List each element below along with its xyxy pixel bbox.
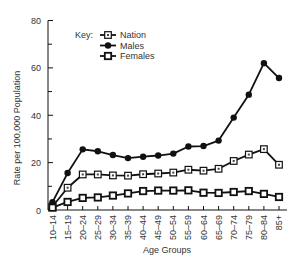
- legend-label: Males: [120, 41, 145, 51]
- series-line: [53, 63, 280, 202]
- filled-circle-marker: [95, 148, 101, 154]
- legend-item-nation: Nation: [100, 30, 146, 40]
- open-square-marker: [231, 189, 237, 195]
- y-axis: 020406080: [31, 16, 53, 216]
- x-tick-label: 75–79: [244, 215, 254, 240]
- filled-circle-marker: [200, 143, 206, 149]
- x-tick-label: 80–84: [259, 215, 269, 240]
- open-square-marker: [140, 188, 146, 194]
- filled-circle-marker: [64, 170, 70, 176]
- filled-circle-marker: [155, 152, 161, 158]
- open-square-marker: [80, 195, 86, 201]
- open-square-marker: [200, 190, 206, 196]
- series-layer: [49, 60, 282, 211]
- x-axis-title: Age Groups: [143, 245, 192, 255]
- filled-circle-marker: [80, 146, 86, 152]
- x-tick-label: 35–39: [123, 215, 133, 240]
- filled-circle-marker: [246, 91, 252, 97]
- open-square-marker: [110, 192, 116, 198]
- x-tick-label: 30–34: [108, 215, 118, 240]
- y-tick-label: 80: [31, 16, 41, 26]
- x-tick-label: 15–19: [63, 215, 73, 240]
- open-square-marker: [125, 190, 131, 196]
- x-tick-label: 65–69: [214, 215, 224, 240]
- filled-circle-marker: [140, 154, 146, 160]
- y-tick-label: 60: [31, 63, 41, 73]
- legend-label: Nation: [120, 30, 146, 40]
- filled-circle-marker: [105, 42, 111, 48]
- x-tick-label: 10–14: [48, 215, 58, 240]
- x-tick-label: 20–24: [78, 215, 88, 240]
- legend: Key:NationMalesFemales: [75, 30, 155, 61]
- filled-circle-marker: [215, 137, 221, 143]
- x-tick-label: 85+: [274, 215, 284, 230]
- filled-circle-marker: [125, 155, 131, 161]
- legend-item-males: Males: [100, 41, 145, 51]
- open-square-marker: [215, 190, 221, 196]
- filled-circle-marker: [185, 143, 191, 149]
- x-tick-label: 60–64: [199, 215, 209, 240]
- legend-label: Females: [120, 51, 155, 61]
- series-females: [49, 187, 282, 211]
- x-axis: 10–1415–1920–2425–2930–3435–3940–4445–49…: [48, 206, 288, 240]
- open-square-marker: [155, 187, 161, 193]
- y-tick-label: 0: [36, 206, 41, 216]
- x-tick-label: 45–49: [153, 215, 163, 240]
- filled-circle-marker: [110, 152, 116, 158]
- x-tick-label: 40–44: [138, 215, 148, 240]
- filled-circle-marker: [261, 60, 267, 66]
- open-square-marker: [95, 194, 101, 200]
- open-square-marker: [49, 204, 55, 210]
- open-square-marker: [64, 199, 70, 205]
- open-square-marker: [246, 188, 252, 194]
- open-square-marker: [261, 191, 267, 197]
- filled-circle-marker: [231, 114, 237, 120]
- y-tick-label: 40: [31, 111, 41, 121]
- open-square-marker: [185, 187, 191, 193]
- x-tick-label: 25–29: [93, 215, 103, 240]
- series-males: [49, 60, 282, 205]
- open-square-marker: [170, 187, 176, 193]
- x-tick-label: 55–59: [183, 215, 193, 240]
- legend-title: Key:: [75, 30, 93, 40]
- y-axis-title: Rate per 100,000 Population: [12, 71, 22, 186]
- open-square-marker: [276, 194, 282, 200]
- legend-item-females: Females: [100, 51, 155, 61]
- x-tick-label: 50–54: [168, 215, 178, 240]
- y-tick-label: 20: [31, 158, 41, 168]
- x-tick-label: 70–74: [229, 215, 239, 240]
- filled-circle-marker: [276, 75, 282, 81]
- line-chart: 020406080 10–1415–1920–2425–2930–3435–39…: [0, 0, 299, 265]
- open-square-marker: [105, 53, 111, 59]
- filled-circle-marker: [170, 150, 176, 156]
